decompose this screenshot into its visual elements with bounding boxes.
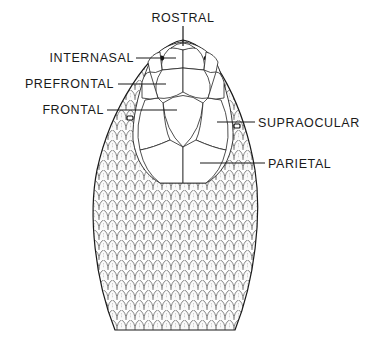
label-frontal: FRONTAL [42,103,104,117]
head-plates [127,42,240,183]
eye-left [127,116,133,120]
label-supraocular: SUPRAOCULAR [258,116,360,130]
snake-head-diagram: ROSTRAL INTERNASAL PREFRONTAL FRONTAL SU… [0,0,381,353]
label-internasal: INTERNASAL [50,51,135,65]
label-rostral: ROSTRAL [151,11,214,25]
eye-right [234,124,240,128]
label-parietal: PARIETAL [268,157,331,171]
label-prefrontal: PREFRONTAL [25,77,114,91]
